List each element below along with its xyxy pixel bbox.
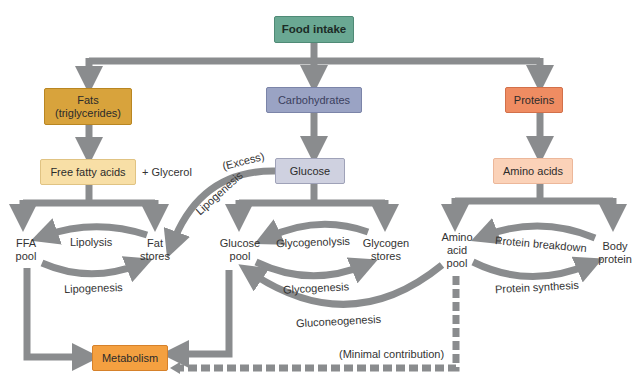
triglycerides-label: (triglycerides) [55, 107, 121, 120]
amino-acids-label: Amino acids [503, 165, 563, 178]
amino-pool-line3: pool [440, 257, 474, 270]
minimal-contribution-label: (Minimal contribution) [339, 348, 444, 361]
arrow-network [0, 0, 644, 388]
glucose-box: Glucose [275, 158, 345, 184]
amino-pool-line1: Amino [440, 231, 474, 244]
carbohydrates-label: Carbohydrates [278, 94, 350, 107]
fat-stores-line1: Fat [138, 237, 172, 250]
arrow-glycogenesis [256, 262, 365, 276]
food-intake-box: Food intake [274, 16, 354, 43]
fat-stores-label: Fat stores [138, 237, 172, 263]
arrow-lipogenesis [42, 263, 140, 274]
lipogenesis-label: Lipogenesis [64, 281, 123, 296]
arrow-lipolysis [44, 227, 147, 236]
glucose-label: Glucose [290, 165, 330, 178]
carbohydrates-box: Carbohydrates [266, 87, 362, 113]
food-intake-label: Food intake [282, 23, 347, 36]
glucose-pool-line1: Glucose [217, 237, 263, 250]
free-fatty-acids-box: Free fatty acids [40, 159, 136, 185]
fat-stores-line2: stores [138, 250, 172, 263]
proteins-label: Proteins [514, 94, 554, 107]
metabolism-label: Metabolism [102, 352, 158, 365]
fats-box: Fats(triglycerides) [44, 88, 132, 125]
minimal-arrowhead [170, 362, 180, 374]
arrow-protein-synthesis [473, 262, 590, 277]
body-protein-line1: Body [594, 240, 636, 253]
amino-acids-box: Amino acids [493, 158, 573, 184]
arrow-glucose-to-metabolism [175, 270, 229, 354]
arrow-ffa-to-metabolism [27, 268, 86, 357]
ffa-pool-label: FFA pool [12, 237, 40, 263]
amino-acid-pool-label: Amino acid pool [440, 231, 474, 270]
glycogen-stores-label: Glycogen stores [360, 237, 412, 263]
glycogen-stores-line1: Glycogen [360, 237, 412, 250]
glycogen-stores-line2: stores [360, 250, 412, 263]
free-fatty-acids-label: Free fatty acids [50, 166, 125, 179]
fats-label: Fats [55, 94, 121, 107]
glycerol-label: + Glycerol [142, 166, 192, 179]
glucose-pool-label: Glucose pool [217, 237, 263, 263]
ffa-pool-line1: FFA [12, 237, 40, 250]
ffa-pool-line2: pool [12, 250, 40, 263]
amino-pool-line2: acid [440, 244, 474, 257]
body-protein-line2: protein [594, 253, 636, 266]
glucose-pool-line2: pool [217, 250, 263, 263]
lipolysis-label: Lipolysis [70, 236, 112, 249]
proteins-box: Proteins [505, 87, 563, 113]
glycogenolysis-label: Glycogenolysis [276, 235, 350, 251]
body-protein-label: Body protein [594, 240, 636, 266]
metabolism-box: Metabolism [92, 345, 168, 371]
